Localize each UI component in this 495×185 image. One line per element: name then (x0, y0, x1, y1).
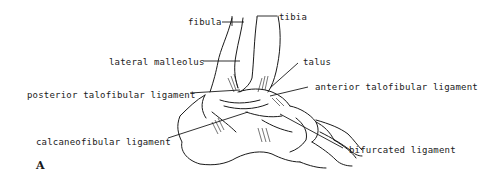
label-tibia: tibia (279, 12, 307, 22)
label-fibula: fibula (188, 17, 222, 27)
leader-talus (270, 63, 298, 88)
label-bifurcated-ligament: bifurcated ligament (349, 145, 456, 155)
leader-posterior-talofibular (190, 90, 240, 93)
panel-letter: A (36, 159, 45, 172)
tibia-outline (240, 18, 257, 92)
anatomy-diagram: fibula tibia lateral malleolus talus pos… (0, 0, 495, 185)
leader-tibia (257, 16, 277, 18)
leader-anterior-talofibular (270, 87, 308, 96)
calcaneus-outline (178, 95, 300, 165)
talus-outline (238, 89, 290, 106)
shading-hatches (212, 74, 284, 142)
label-anterior-talofibular-ligament: anterior talofibular ligament (315, 82, 478, 92)
label-lateral-malleolus: lateral malleolus (109, 57, 205, 67)
midfoot-outline (290, 106, 318, 142)
fibula-outline (210, 18, 232, 92)
label-posterior-talofibular-ligament: posterior talofibular ligament (27, 90, 196, 100)
ligament-bands (220, 100, 260, 103)
label-talus: talus (303, 57, 331, 67)
label-calcaneofibular-ligament: calcaneofibular ligament (36, 137, 171, 147)
